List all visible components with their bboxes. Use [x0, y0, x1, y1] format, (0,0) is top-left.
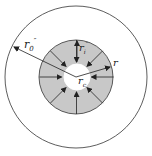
label-outer-radius: r0″ [24, 37, 37, 53]
radial-diagram: r0″ ri″ r rc [0, 0, 152, 156]
label-radius: r [113, 57, 119, 68]
